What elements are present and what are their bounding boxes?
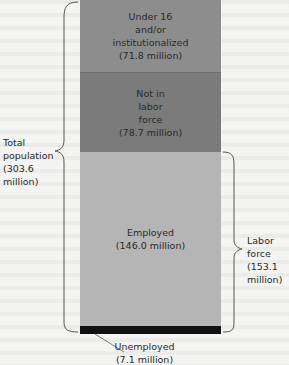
total-population-brace (55, 2, 78, 332)
total-population-label: Total population (303.6 million) (3, 136, 54, 188)
labor-force-brace (223, 152, 242, 332)
labor-force-label: Labor force (153.1 million) (247, 234, 282, 286)
unemployed-label: Unemployed (7.1 million) (0, 340, 289, 365)
